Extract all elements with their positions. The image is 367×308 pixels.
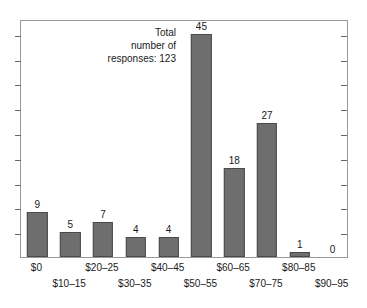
bar-value-label: 45: [196, 21, 207, 32]
bar-slot: 1: [283, 21, 316, 257]
bar-slot: 27: [251, 21, 284, 257]
bar-chart-figure: 9574445182710 Total number of responses:…: [0, 0, 367, 308]
bar-value-label: 4: [166, 224, 172, 235]
bar-value-label: 9: [35, 199, 41, 210]
bar-value-label: 18: [229, 155, 240, 166]
bar: [60, 232, 80, 257]
x-axis-label: $50–55: [184, 278, 217, 290]
bar: [158, 237, 178, 257]
x-axis-labels: $0$10–15$20–25$30–35$40–45$50–55$60–65$7…: [20, 259, 348, 305]
bar: [224, 168, 244, 257]
bar-slot: 0: [316, 21, 349, 257]
x-axis-label: $10–15: [53, 278, 86, 290]
bar-value-label: 0: [330, 244, 336, 255]
bar: [27, 212, 47, 257]
x-axis-label: $40–45: [151, 262, 184, 274]
bar-value-label: 7: [100, 209, 106, 220]
x-axis-label: $20–25: [85, 262, 118, 274]
x-axis-label: $0: [31, 262, 42, 274]
bar: [126, 237, 146, 257]
bar: [93, 222, 113, 257]
x-axis-label: $70–75: [249, 278, 282, 290]
bar-value-label: 1: [297, 239, 303, 250]
total-responses-annotation: Total number of responses: 123: [56, 26, 176, 65]
x-axis-label: $60–65: [217, 262, 250, 274]
bar: [290, 252, 310, 257]
bar: [191, 34, 211, 257]
bar-value-label: 27: [261, 110, 272, 121]
x-axis-label: $30–35: [118, 278, 151, 290]
bar-value-label: 4: [133, 224, 139, 235]
bar-value-label: 5: [67, 219, 73, 230]
bar: [257, 123, 277, 257]
bar-slot: 45: [185, 21, 218, 257]
x-axis-label: $80–85: [282, 262, 315, 274]
x-axis-label: $90–95: [315, 278, 348, 290]
bar-slot: 9: [21, 21, 54, 257]
bar-slot: 18: [218, 21, 251, 257]
